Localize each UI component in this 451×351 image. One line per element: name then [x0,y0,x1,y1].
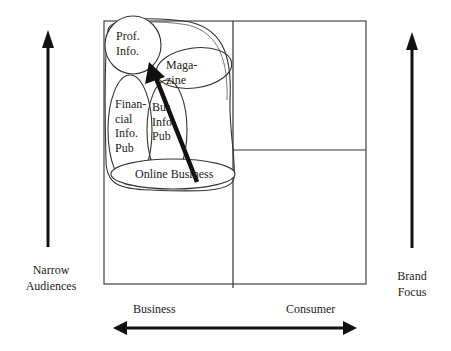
magazine-line1: Maga- [166,58,197,73]
consumer-label: Consumer [286,301,335,317]
bus-info-line2: Info [152,115,172,130]
financial-info-pub-label: Finan- cial Info. Pub [115,97,146,155]
brand-text: Brand [392,268,432,284]
magazine-label: Maga- zine [166,58,197,87]
narrow-text: Narrow [24,262,78,278]
bus-info-line3: Pub [152,129,172,144]
financial-line2: cial [115,112,146,127]
focus-text: Focus [392,284,432,300]
brand-focus-arrow-icon [406,32,418,248]
business-label: Business [133,301,176,317]
prof-info-line2: Info. [116,44,140,59]
financial-line3: Info. [115,126,146,141]
prof-info-line1: Prof. [116,29,140,44]
online-business-text: Online Business [135,167,213,181]
diagram-canvas [0,0,451,351]
narrow-audiences-label: Narrow Audiences [24,262,78,294]
bus-info-pub-label: Bus Info Pub [152,100,172,144]
financial-line1: Finan- [115,97,146,112]
online-business-label: Online Business [135,167,213,182]
audiences-text: Audiences [24,278,78,294]
narrow-audiences-arrow-icon [42,30,54,247]
financial-line4: Pub [115,141,146,156]
bus-info-line1: Bus [152,100,172,115]
magazine-line2: zine [166,73,197,88]
business-consumer-arrow-icon [113,321,357,335]
prof-info-label: Prof. Info. [116,29,140,58]
brand-focus-label: Brand Focus [392,268,432,300]
